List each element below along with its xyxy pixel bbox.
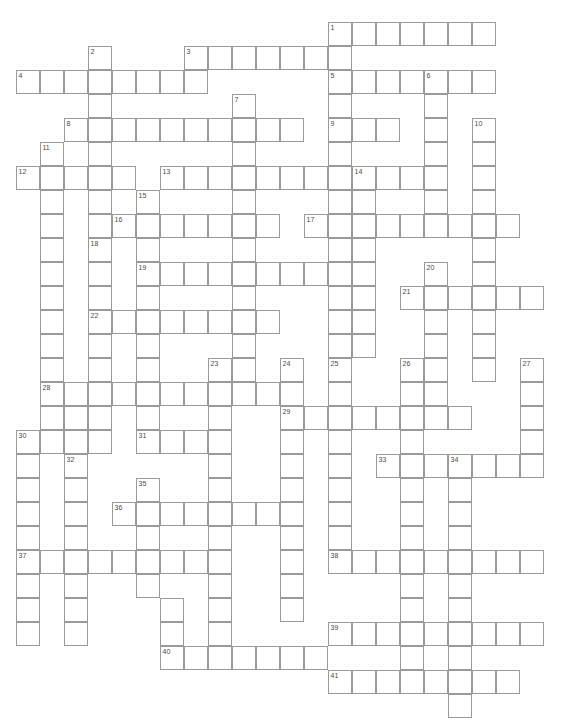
crossword-cell[interactable] (304, 646, 328, 670)
crossword-cell[interactable] (208, 526, 232, 550)
crossword-cell[interactable]: 20 (424, 262, 448, 286)
crossword-cell[interactable] (208, 382, 232, 406)
crossword-cell[interactable] (112, 166, 136, 190)
crossword-cell[interactable] (40, 166, 64, 190)
crossword-cell[interactable] (160, 214, 184, 238)
crossword-cell[interactable] (328, 262, 352, 286)
crossword-cell[interactable] (184, 262, 208, 286)
crossword-cell[interactable] (280, 502, 304, 526)
crossword-cell[interactable] (400, 526, 424, 550)
crossword-cell[interactable] (136, 118, 160, 142)
crossword-cell[interactable] (448, 70, 472, 94)
crossword-cell[interactable] (160, 598, 184, 622)
crossword-cell[interactable] (40, 550, 64, 574)
crossword-cell[interactable]: 23 (208, 358, 232, 382)
crossword-cell[interactable] (232, 646, 256, 670)
crossword-cell[interactable]: 9 (328, 118, 352, 142)
crossword-cell[interactable] (400, 22, 424, 46)
crossword-cell[interactable] (88, 190, 112, 214)
crossword-cell[interactable] (64, 526, 88, 550)
crossword-cell[interactable] (160, 310, 184, 334)
crossword-cell[interactable] (424, 670, 448, 694)
crossword-cell[interactable] (520, 382, 544, 406)
crossword-cell[interactable] (40, 406, 64, 430)
crossword-cell[interactable] (328, 334, 352, 358)
crossword-cell[interactable]: 31 (136, 430, 160, 454)
crossword-cell[interactable]: 24 (280, 358, 304, 382)
crossword-cell[interactable]: 38 (328, 550, 352, 574)
crossword-cell[interactable] (472, 238, 496, 262)
crossword-cell[interactable] (40, 238, 64, 262)
crossword-cell[interactable] (424, 382, 448, 406)
crossword-cell[interactable] (280, 478, 304, 502)
crossword-cell[interactable] (16, 502, 40, 526)
crossword-cell[interactable]: 15 (136, 190, 160, 214)
crossword-cell[interactable] (448, 526, 472, 550)
crossword-cell[interactable] (472, 22, 496, 46)
crossword-cell[interactable]: 7 (232, 94, 256, 118)
crossword-cell[interactable] (88, 334, 112, 358)
crossword-cell[interactable]: 40 (160, 646, 184, 670)
crossword-cell[interactable]: 5 (328, 70, 352, 94)
crossword-cell[interactable]: 4 (16, 70, 40, 94)
crossword-cell[interactable] (16, 598, 40, 622)
crossword-cell[interactable] (88, 550, 112, 574)
crossword-cell[interactable] (256, 118, 280, 142)
crossword-cell[interactable] (208, 550, 232, 574)
crossword-cell[interactable] (472, 70, 496, 94)
crossword-cell[interactable] (112, 382, 136, 406)
crossword-cell[interactable] (352, 70, 376, 94)
crossword-cell[interactable] (208, 46, 232, 70)
crossword-cell[interactable] (184, 430, 208, 454)
crossword-cell[interactable] (232, 166, 256, 190)
crossword-cell[interactable] (232, 46, 256, 70)
crossword-cell[interactable] (448, 694, 472, 718)
crossword-cell[interactable]: 14 (352, 166, 376, 190)
crossword-cell[interactable] (64, 598, 88, 622)
crossword-cell[interactable] (352, 334, 376, 358)
crossword-cell[interactable] (184, 214, 208, 238)
crossword-cell[interactable] (112, 550, 136, 574)
crossword-cell[interactable] (424, 214, 448, 238)
crossword-cell[interactable] (472, 334, 496, 358)
crossword-cell[interactable] (376, 22, 400, 46)
crossword-cell[interactable] (88, 262, 112, 286)
crossword-cell[interactable] (232, 262, 256, 286)
crossword-cell[interactable] (472, 670, 496, 694)
crossword-cell[interactable]: 12 (16, 166, 40, 190)
crossword-cell[interactable] (232, 238, 256, 262)
crossword-cell[interactable] (328, 502, 352, 526)
crossword-cell[interactable] (64, 166, 88, 190)
crossword-cell[interactable] (136, 406, 160, 430)
crossword-cell[interactable] (64, 550, 88, 574)
crossword-cell[interactable] (208, 478, 232, 502)
crossword-cell[interactable] (424, 142, 448, 166)
crossword-cell[interactable]: 8 (64, 118, 88, 142)
crossword-cell[interactable] (424, 286, 448, 310)
crossword-cell[interactable] (472, 310, 496, 334)
crossword-cell[interactable] (352, 670, 376, 694)
crossword-cell[interactable]: 39 (328, 622, 352, 646)
crossword-cell[interactable] (136, 238, 160, 262)
crossword-cell[interactable]: 11 (40, 142, 64, 166)
crossword-cell[interactable] (136, 214, 160, 238)
crossword-cell[interactable] (184, 70, 208, 94)
crossword-cell[interactable] (280, 382, 304, 406)
crossword-cell[interactable]: 37 (16, 550, 40, 574)
crossword-cell[interactable] (400, 430, 424, 454)
crossword-cell[interactable] (232, 190, 256, 214)
crossword-cell[interactable] (304, 46, 328, 70)
crossword-cell[interactable] (472, 142, 496, 166)
crossword-cell[interactable] (352, 238, 376, 262)
crossword-cell[interactable] (40, 310, 64, 334)
crossword-cell[interactable] (496, 670, 520, 694)
crossword-cell[interactable] (64, 502, 88, 526)
crossword-cell[interactable] (400, 166, 424, 190)
crossword-cell[interactable] (112, 118, 136, 142)
crossword-cell[interactable] (88, 430, 112, 454)
crossword-cell[interactable] (352, 190, 376, 214)
crossword-cell[interactable] (424, 310, 448, 334)
crossword-cell[interactable] (208, 118, 232, 142)
crossword-cell[interactable]: 17 (304, 214, 328, 238)
crossword-cell[interactable] (328, 454, 352, 478)
